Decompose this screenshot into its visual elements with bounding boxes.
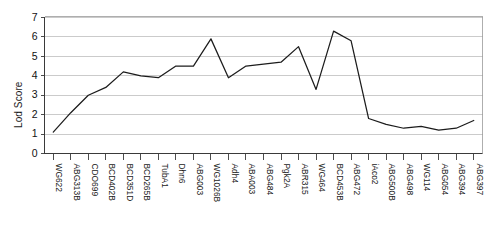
x-tick-label: ABG003 — [195, 164, 205, 196]
x-tick-label: WG1026B — [212, 164, 222, 203]
x-tick-label: ABG054 — [440, 164, 450, 196]
y-tick-label: 7 — [32, 11, 38, 23]
x-axis-ticks — [53, 154, 473, 160]
x-tick-label: ABR315 — [300, 164, 310, 196]
lod-score-line — [53, 31, 473, 132]
y-tick-label: 1 — [32, 127, 38, 139]
x-tick-label: BCD402B — [107, 164, 117, 202]
x-tick-label: BCD265B — [142, 164, 152, 202]
x-tick-label: ABG484 — [265, 164, 275, 196]
lod-score-chart: Lod Score 01234567 WG622ABG313BCDO699BCD… — [0, 0, 494, 226]
y-tick-label: 6 — [32, 30, 38, 42]
x-tick-label: BCD453B — [335, 164, 345, 202]
x-tick-label: WG114 — [422, 164, 432, 192]
y-tick-label: 0 — [32, 147, 38, 159]
x-tick-label: CDO699 — [90, 164, 100, 197]
x-tick-label: ABG394 — [457, 164, 467, 196]
x-tick-label: iAco2 — [370, 164, 380, 185]
x-tick-label: ABG313B — [72, 164, 82, 202]
y-tick-label: 3 — [32, 88, 38, 100]
y-axis-title: Lod Score — [13, 82, 24, 129]
y-tick-label: 5 — [32, 50, 38, 62]
x-tick-label: Pgk2A — [282, 164, 292, 189]
x-axis-labels: WG622ABG313BCDO699BCD402BBCD351DBCD265BT… — [54, 164, 484, 203]
x-tick-label: WG464 — [317, 164, 327, 193]
x-tick-label: Adh4 — [230, 164, 240, 184]
x-tick-label: ABG472 — [352, 164, 362, 196]
x-tick-label: ABA003 — [247, 164, 257, 195]
x-tick-label: ABG397 — [475, 164, 485, 196]
x-tick-label: WG622 — [54, 164, 64, 193]
x-tick-label: TubA1 — [160, 164, 170, 189]
chart-canvas: 01234567 WG622ABG313BCDO699BCD402BBCD351… — [0, 0, 494, 226]
lod-score-series — [53, 31, 473, 132]
x-tick-label: ABG498 — [405, 164, 415, 196]
x-tick-label: BCD351D — [125, 164, 135, 202]
y-tick-label: 4 — [32, 69, 38, 81]
x-tick-label: ABG500B — [387, 164, 397, 202]
y-axis-ticks: 01234567 — [32, 11, 45, 159]
gridlines-group — [45, 18, 483, 135]
x-tick-label: Dhn6 — [177, 164, 187, 184]
y-tick-label: 2 — [32, 108, 38, 120]
